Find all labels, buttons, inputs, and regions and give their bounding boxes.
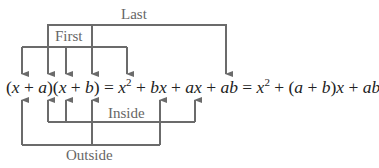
first-connector	[22, 47, 127, 74]
first-label: First	[55, 29, 83, 44]
inside-label: Inside	[108, 106, 145, 121]
foil-equation: (x + a)(x + b) = x2 + bx + ax + ab = x2 …	[6, 79, 379, 97]
foil-diagram: Last First Inside Outside (x + a)(x + b)…	[0, 0, 379, 168]
last-label: Last	[121, 7, 147, 22]
outside-label: Outside	[66, 148, 113, 163]
